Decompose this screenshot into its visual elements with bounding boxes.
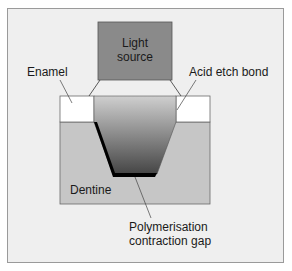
light-source-label-line1: Light (110, 36, 160, 50)
light-source-label-line2: source (110, 50, 160, 64)
light-beam-left (89, 80, 100, 96)
light-source-label: Light source (110, 36, 160, 64)
dentine-label: Dentine (70, 183, 111, 197)
enamel-right (176, 96, 210, 122)
contraction-gap-label-line1: Polymerisation (129, 220, 211, 234)
contraction-gap-label: Polymerisation contraction gap (129, 220, 211, 248)
enamel-left (60, 96, 94, 122)
contraction-gap-label-line2: contraction gap (129, 234, 211, 248)
acid-etch-bond-label: Acid etch bond (189, 65, 268, 79)
enamel-label: Enamel (27, 65, 68, 79)
light-beam-right (170, 80, 181, 96)
